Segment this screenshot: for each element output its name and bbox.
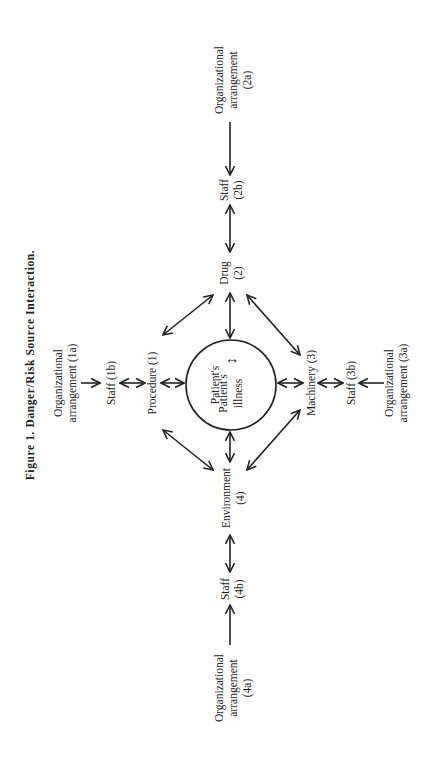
node-staff-2b: Staff (2b) (217, 179, 245, 201)
node-org-2a: Organizational arrangement (2a) (212, 46, 254, 114)
arrow-procedure-drug (163, 295, 213, 335)
node-procedure: Procedure (1) (145, 352, 159, 415)
patient-illness-line2: illness (231, 374, 246, 413)
arrow-procedure-environment (163, 430, 213, 470)
node-org-1a: Organizational arrangement (1a) (51, 344, 79, 423)
node-environment: Environment (4) (219, 468, 247, 528)
node-staff-4b: Staff (4b) (218, 578, 246, 600)
node-org-4a: Organizational arrangement (4a) (212, 654, 254, 722)
patient-inner-arrow: ↕ (224, 357, 239, 364)
node-staff-3b: Staff (3b) (344, 361, 358, 405)
figure-caption: Figure 1. Danger/Risk Source Interaction… (23, 250, 37, 481)
patient-illness-label: Patient's (208, 366, 222, 405)
node-machinery: Machinery (3) (304, 350, 318, 416)
node-staff-1b: Staff (1b) (104, 361, 118, 405)
node-org-3a: Organizational arrangement (3a) (382, 344, 410, 423)
arrow-machinery-environment (247, 410, 300, 470)
node-drug: Drug (2) (217, 261, 245, 285)
